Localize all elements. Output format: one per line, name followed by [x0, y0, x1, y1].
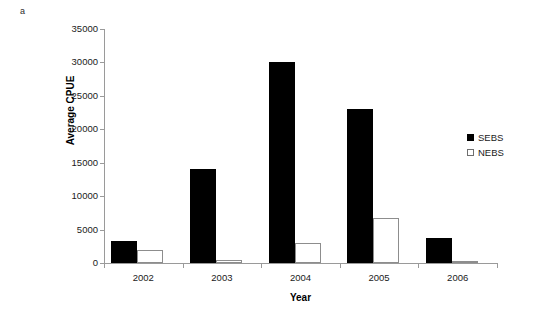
- y-tick-label: 30000: [72, 55, 98, 68]
- bar-sebs-2004: [269, 62, 295, 263]
- x-tick-mark: [497, 263, 498, 268]
- legend-label: SEBS: [478, 130, 503, 145]
- x-axis-line: [104, 263, 497, 264]
- x-axis-title: Year: [104, 292, 497, 303]
- y-tick-label: 15000: [72, 156, 98, 169]
- bar-nebs-2006: [452, 261, 478, 263]
- bar-sebs-2006: [426, 238, 452, 263]
- y-tick-label: 35000: [72, 22, 98, 35]
- bar-group: [269, 29, 321, 263]
- bar-group: [190, 29, 242, 263]
- y-tick-mark: [100, 129, 104, 130]
- y-tick-mark: [100, 163, 104, 164]
- x-tick-mark: [104, 263, 105, 268]
- legend-item-nebs: NEBS: [467, 145, 504, 160]
- x-tick-label-2003: 2003: [183, 271, 262, 284]
- bar-nebs-2005: [373, 218, 399, 263]
- legend-swatch-sebs: [467, 134, 474, 141]
- y-axis-title: Average CPUE: [65, 76, 76, 146]
- y-tick-label: 10000: [72, 189, 98, 202]
- y-tick-mark: [100, 230, 104, 231]
- x-tick-label-2005: 2005: [340, 271, 419, 284]
- panel-label: a: [20, 6, 25, 17]
- x-tick-label-2006: 2006: [418, 271, 497, 284]
- bar-sebs-2005: [347, 109, 373, 263]
- bar-nebs-2002: [137, 250, 163, 263]
- bar-chart-figure: a 05000100001500020000250003000035000 20…: [0, 0, 536, 318]
- plot-area: 05000100001500020000250003000035000 2002…: [104, 29, 497, 263]
- bar-nebs-2004: [295, 243, 321, 263]
- bar-nebs-2003: [216, 260, 242, 263]
- chart-legend: SEBSNEBS: [467, 130, 504, 160]
- y-tick-label: 5000: [77, 223, 98, 236]
- bar-group: [347, 29, 399, 263]
- y-axis-line: [104, 29, 105, 263]
- x-tick-label-2002: 2002: [104, 271, 183, 284]
- legend-label: NEBS: [478, 145, 504, 160]
- y-tick-label: 0: [93, 256, 98, 269]
- x-tick-mark: [418, 263, 419, 268]
- y-tick-mark: [100, 29, 104, 30]
- x-tick-mark: [261, 263, 262, 268]
- y-tick-mark: [100, 196, 104, 197]
- legend-swatch-nebs: [467, 149, 474, 156]
- x-tick-label-2004: 2004: [261, 271, 340, 284]
- bar-group: [111, 29, 163, 263]
- bar-sebs-2002: [111, 241, 137, 263]
- x-tick-mark: [183, 263, 184, 268]
- legend-item-sebs: SEBS: [467, 130, 504, 145]
- y-tick-mark: [100, 96, 104, 97]
- y-tick-mark: [100, 62, 104, 63]
- x-tick-mark: [340, 263, 341, 268]
- bar-sebs-2003: [190, 169, 216, 263]
